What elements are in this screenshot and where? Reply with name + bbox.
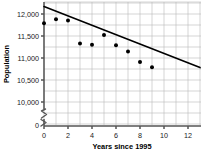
x-tick-label-12: 12 — [184, 131, 192, 140]
x-tick-label-6: 6 — [114, 131, 118, 140]
y-tick-label-10000: 10,000 — [17, 98, 39, 107]
data-point — [42, 21, 46, 25]
data-point — [78, 42, 82, 46]
y-tick-label-12000: 12,000 — [17, 10, 39, 19]
data-point — [54, 17, 58, 21]
data-point — [90, 43, 94, 47]
population-scatter-chart: 12,000 11,500 11,000 10,500 10,000 0 0 2… — [0, 0, 201, 152]
data-point — [138, 60, 142, 64]
data-point — [114, 43, 118, 47]
x-tick-label-10: 10 — [160, 131, 168, 140]
x-tick-label-4: 4 — [90, 131, 94, 140]
x-tick-label-2: 2 — [66, 131, 70, 140]
x-tick-label-8: 8 — [138, 131, 142, 140]
data-point — [150, 65, 154, 69]
y-tick-label-11000: 11,000 — [18, 54, 39, 63]
x-tick-label-0: 0 — [42, 131, 46, 140]
y-axis-title: Population — [2, 44, 11, 83]
y-tick-label-11500: 11,500 — [18, 32, 39, 41]
data-point — [102, 33, 106, 37]
data-point — [126, 49, 130, 53]
x-axis-title: Years since 1995 — [92, 142, 151, 151]
y-tick-label-10500: 10,500 — [17, 76, 39, 85]
y-axis-zero-label: 0 — [35, 121, 39, 130]
chart-svg: 12,000 11,500 11,000 10,500 10,000 0 0 2… — [0, 0, 201, 152]
data-point — [66, 19, 70, 23]
